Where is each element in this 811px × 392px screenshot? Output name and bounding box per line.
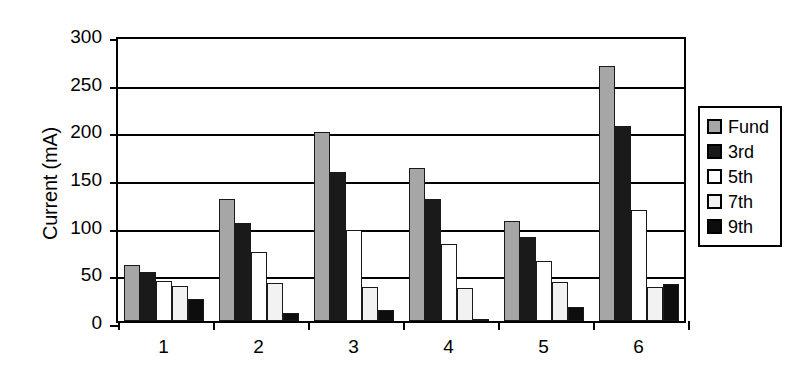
bar-5th-5 [536,261,552,321]
legend-item-9th: 9th [707,214,774,239]
bar-fund-4 [409,168,425,321]
bar-chart: Current (mA) 300250200150100500 123456 F… [0,0,811,392]
bar-group [219,39,299,321]
x-tick-label: 1 [144,336,184,358]
x-axis-tick [213,321,215,330]
legend-swatch-icon [707,119,722,134]
bar-group [504,39,584,321]
bar-3rd-1 [140,272,156,321]
x-axis-tick [403,321,405,330]
bar-group [409,39,489,321]
bar-3rd-3 [330,172,346,321]
bar-7th-5 [552,282,568,321]
y-axis-tick [110,39,118,41]
x-tick-label: 2 [239,336,279,358]
bar-7th-1 [172,286,188,321]
y-tick-label: 200 [46,122,102,141]
bar-group [314,39,394,321]
y-tick-label: 100 [46,218,102,237]
y-tick-label: 250 [46,75,102,94]
y-axis-tick [110,134,118,136]
bar-7th-4 [457,288,473,321]
legend: Fund3rd5th7th9th [698,106,782,247]
bar-5th-2 [251,252,267,321]
legend-swatch-icon [707,169,722,184]
legend-label: 3rd [728,143,754,161]
x-axis-tick-labels: 123456 [116,336,686,370]
legend-item-3rd: 3rd [707,139,774,164]
bar-9th-2 [283,313,299,321]
bar-9th-4 [473,319,489,321]
legend-swatch-icon [707,144,722,159]
bar-fund-3 [314,132,330,321]
bar-group [124,39,204,321]
y-axis-tick [110,230,118,232]
bar-7th-6 [647,287,663,321]
bar-7th-2 [267,283,283,321]
legend-label: 7th [728,193,753,211]
x-tick-label: 4 [429,336,469,358]
bar-9th-1 [188,299,204,321]
x-axis-tick [308,321,310,330]
y-axis-tick [110,182,118,184]
bar-3rd-5 [520,237,536,321]
y-tick-label: 50 [46,265,102,284]
x-tick-label: 6 [619,336,659,358]
bar-3rd-2 [235,223,251,321]
legend-label: 9th [728,218,753,236]
x-tick-label: 3 [334,336,374,358]
bar-9th-6 [663,284,679,321]
plot-area [116,37,686,323]
bar-fund-6 [599,66,615,321]
legend-item-7th: 7th [707,189,774,214]
legend-item-fund: Fund [707,114,774,139]
x-axis-tick [498,321,500,330]
bar-fund-5 [504,221,520,321]
bar-3rd-6 [615,126,631,321]
x-tick-label: 5 [524,336,564,358]
legend-label: Fund [728,118,769,136]
bar-9th-3 [378,310,394,321]
y-axis-tick [110,277,118,279]
y-tick-label: 300 [46,27,102,46]
legend-swatch-icon [707,194,722,209]
x-axis-tick [688,321,690,330]
y-axis-tick-labels: 300250200150100500 [46,26,102,324]
bar-5th-4 [441,244,457,321]
bar-group [599,39,679,321]
legend-swatch-icon [707,219,722,234]
bar-7th-3 [362,287,378,321]
y-tick-label: 0 [46,313,102,332]
legend-label: 5th [728,168,753,186]
bar-5th-6 [631,210,647,321]
y-axis-tick [110,325,118,327]
bar-fund-2 [219,199,235,321]
bar-9th-5 [568,307,584,321]
x-axis-tick [593,321,595,330]
bar-fund-1 [124,265,140,321]
x-axis-tick [118,321,120,330]
legend-item-5th: 5th [707,164,774,189]
bar-5th-1 [156,281,172,321]
y-axis-tick [110,87,118,89]
y-tick-label: 150 [46,170,102,189]
bar-3rd-4 [425,199,441,321]
bar-5th-3 [346,230,362,321]
